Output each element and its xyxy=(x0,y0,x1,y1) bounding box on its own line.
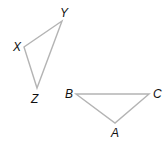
vertex-label-x: X xyxy=(12,40,22,54)
vertex-label-b: B xyxy=(65,87,73,101)
vertex-label-y: Y xyxy=(60,6,69,20)
triangles-figure: Y X Z B C A xyxy=(0,0,168,141)
vertex-label-a: A xyxy=(110,126,119,140)
vertex-label-c: C xyxy=(153,87,162,101)
vertex-label-z: Z xyxy=(30,92,39,106)
triangle-abc xyxy=(76,94,149,123)
triangle-xyz xyxy=(24,21,62,88)
